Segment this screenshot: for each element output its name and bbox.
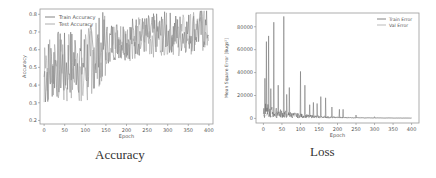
- x-tick-label: 300: [370, 126, 380, 132]
- x-tick-label: 50: [62, 127, 68, 133]
- y-tick-label: 0: [250, 115, 253, 121]
- y-tick-label: 0.6: [29, 46, 37, 52]
- x-tick-label: 0: [262, 126, 265, 132]
- x-tick-label: 100: [81, 127, 91, 133]
- loss-chart: 0501001502002503003504000200004000060000…: [220, 0, 436, 140]
- y-tick-label: 60000: [237, 46, 253, 52]
- y-tick-label: 0.8: [29, 11, 37, 17]
- x-tick-label: 150: [101, 127, 111, 133]
- legend-label: Train Accuracy: [58, 14, 95, 21]
- x-tick-label: 250: [351, 126, 361, 132]
- y-tick-label: 0.4: [29, 82, 37, 88]
- series-line: [263, 16, 411, 118]
- x-tick-label: 0: [43, 127, 46, 133]
- y-axis-label: Accuracy: [21, 55, 28, 78]
- x-tick-label: 100: [296, 126, 306, 132]
- x-tick-label: 250: [142, 127, 152, 133]
- legend-label: Test Accuracy: [58, 21, 93, 28]
- x-tick-label: 350: [388, 126, 398, 132]
- y-tick-label: 20000: [237, 92, 253, 98]
- accuracy-plot: 0501001502002503003504000.20.30.40.50.60…: [0, 0, 220, 140]
- x-axis-label: Epoch: [330, 132, 345, 139]
- y-tick-label: 0.2: [29, 117, 37, 123]
- plot-frame: [256, 13, 419, 123]
- x-tick-label: 300: [163, 127, 173, 133]
- y-tick-label: 0.5: [29, 64, 37, 70]
- x-axis-label: Epoch: [119, 133, 134, 140]
- y-tick-label: 40000: [237, 69, 253, 75]
- legend-label: Val Error: [389, 23, 408, 28]
- y-tick-label: 0.3: [29, 100, 37, 106]
- x-tick-label: 150: [314, 126, 324, 132]
- x-tick-label: 400: [407, 126, 417, 132]
- y-tick-label: 0.7: [29, 29, 37, 35]
- y-axis-label: Mean Square Error [Bugs²]: [224, 38, 229, 98]
- y-tick-label: 80000: [237, 24, 253, 30]
- accuracy-caption: Accuracy: [95, 147, 145, 163]
- x-tick-label: 400: [204, 127, 214, 133]
- x-tick-label: 50: [279, 126, 285, 132]
- accuracy-chart: 0501001502002503003504000.20.30.40.50.60…: [0, 0, 220, 140]
- x-tick-label: 350: [184, 127, 194, 133]
- legend-label: Train Error: [388, 17, 412, 22]
- loss-plot: 0501001502002503003504000200004000060000…: [220, 0, 436, 140]
- loss-caption: Loss: [310, 144, 335, 160]
